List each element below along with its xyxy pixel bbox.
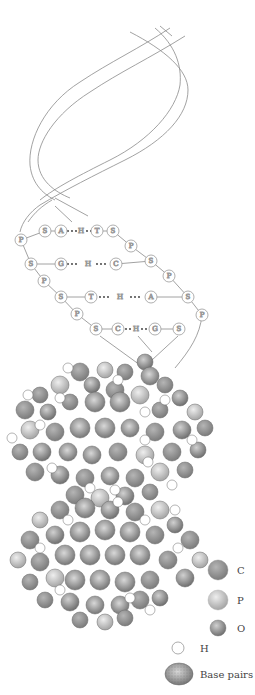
sugar-node: S — [145, 255, 157, 267]
hbond-label: H — [78, 227, 84, 235]
svg-text:P: P — [200, 311, 205, 319]
backbone-lines — [21, 231, 202, 368]
svg-text:T: T — [95, 227, 100, 235]
svg-text:Base pairs: Base pairs — [200, 669, 253, 680]
base-node: G — [55, 258, 67, 270]
svg-text:O: O — [237, 623, 245, 634]
sugar-node: S — [90, 323, 102, 335]
legend-item-p: P — [208, 590, 244, 610]
svg-text:S: S — [111, 227, 116, 235]
phosphate-node: P — [71, 308, 83, 320]
svg-text:S: S — [43, 227, 48, 235]
svg-text:S: S — [149, 257, 154, 265]
phosphate-node: P — [196, 309, 208, 321]
sugar-node: S — [173, 323, 185, 335]
legend-item-base-pairs: Base pairs — [165, 663, 253, 685]
legend-item-c: C — [208, 560, 245, 580]
svg-text:C: C — [113, 260, 118, 268]
svg-text:S: S — [59, 293, 64, 301]
svg-text:P: P — [42, 277, 47, 285]
sugar-node: S — [107, 225, 119, 237]
ladder-nodes: P S A H T S P S G H C S P P S T H A S P … — [15, 225, 208, 335]
legend-item-o: O — [210, 620, 245, 636]
carbon-atom-icon — [208, 560, 228, 580]
base-node: T — [91, 225, 103, 237]
svg-text:S: S — [94, 325, 99, 333]
svg-text:G: G — [152, 325, 158, 333]
hbond-label: H — [133, 325, 139, 333]
svg-text:P: P — [129, 242, 134, 250]
hbond-label: H — [85, 260, 91, 268]
legend-item-h: H — [172, 642, 209, 654]
svg-text:C: C — [237, 565, 245, 576]
phosphate-node: P — [125, 240, 137, 252]
phosphorus-atom-icon — [208, 590, 228, 610]
svg-text:G: G — [58, 260, 64, 268]
svg-text:A: A — [57, 227, 64, 235]
base-node: C — [112, 323, 124, 335]
svg-text:A: A — [147, 293, 154, 301]
svg-text:P: P — [19, 236, 24, 244]
base-node: C — [110, 258, 122, 270]
hydrogen-atom-icon — [172, 642, 184, 654]
space-filling-model — [7, 354, 213, 630]
svg-text:T: T — [89, 293, 94, 301]
base-node: A — [145, 291, 157, 303]
svg-text:P: P — [237, 595, 244, 606]
oxygen-atom-icon — [210, 620, 226, 636]
svg-text:H: H — [200, 643, 209, 654]
phosphate-node: P — [163, 270, 175, 282]
svg-text:C: C — [115, 325, 120, 333]
sugar-node: S — [55, 291, 67, 303]
dna-diagram: P S A H T S P S G H C S P P S T H A S P … — [0, 0, 255, 695]
phosphate-node: P — [15, 234, 27, 246]
svg-text:S: S — [29, 260, 34, 268]
svg-text:P: P — [75, 310, 80, 318]
svg-text:P: P — [167, 272, 172, 280]
base-node: G — [149, 323, 161, 335]
base-node: T — [85, 291, 97, 303]
svg-text:S: S — [177, 325, 182, 333]
helix-ribbons — [20, 26, 188, 232]
sugar-node: S — [25, 258, 37, 270]
svg-text:S: S — [186, 293, 191, 301]
phosphate-node: P — [38, 275, 50, 287]
sugar-node: S — [182, 291, 194, 303]
base-node: A — [55, 225, 67, 237]
sugar-node: S — [39, 225, 51, 237]
hbond-label: H — [117, 293, 123, 301]
